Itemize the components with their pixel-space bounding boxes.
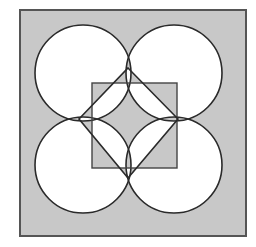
circle-1 — [35, 25, 131, 121]
geometric-figure — [0, 0, 256, 247]
figure-canvas — [0, 0, 256, 247]
